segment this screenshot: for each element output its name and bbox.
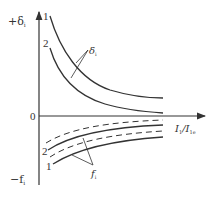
f-curve-2-solid [48, 125, 163, 150]
origin-label: 0 [30, 110, 36, 122]
diagram-canvas: +δi −fi 0 I1/I1e δi fi 1 2 2 1 [0, 0, 217, 197]
f-curve-label: fi [90, 168, 97, 180]
y-axis-positive-label: +δi [8, 15, 26, 28]
delta-leader-1 [76, 50, 88, 63]
delta-curve-1 [50, 16, 163, 98]
lower-curve-1-label: 1 [46, 160, 52, 172]
lower-curve-2-label: 2 [42, 145, 48, 157]
f-curve-1-solid [53, 137, 163, 164]
y-axis-negative-label: −fi [10, 173, 25, 186]
upper-curve-1-label: 1 [43, 10, 49, 22]
delta-curve-label: δi [89, 45, 97, 57]
f-curve-2-dashed-upper [46, 120, 163, 143]
delta-curve-2 [50, 48, 163, 113]
upper-curve-2-label: 2 [43, 37, 49, 49]
x-axis-label: I1/I1e [174, 123, 196, 135]
